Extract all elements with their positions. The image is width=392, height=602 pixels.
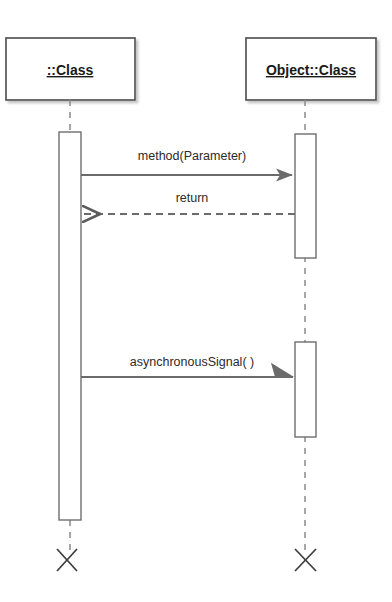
activation-bar-right-2[interactable]	[295, 342, 316, 437]
activation-bar-left-1[interactable]	[59, 132, 81, 520]
lifeline-label-left: ::Class	[47, 62, 94, 78]
message-label-method: method(Parameter)	[138, 149, 246, 163]
message-label-async-signal: asynchronousSignal( )	[130, 355, 254, 369]
message-return[interactable]: return	[84, 191, 295, 214]
sequence-diagram-svg: ::Class Object::Class method(Parameter)	[0, 0, 392, 602]
message-async-signal[interactable]: asynchronousSignal( )	[81, 355, 293, 377]
destroy-marker-right	[295, 549, 316, 571]
lifeline-label-right: Object::Class	[266, 62, 356, 78]
activation-bar-right-1[interactable]	[295, 134, 316, 258]
message-label-return: return	[176, 191, 209, 205]
destroy-marker-left	[57, 549, 77, 571]
lifeline-left[interactable]: ::Class	[6, 38, 135, 571]
sequence-diagram-canvas: ::Class Object::Class method(Parameter)	[0, 0, 392, 602]
lifeline-right[interactable]: Object::Class	[246, 38, 376, 571]
message-method[interactable]: method(Parameter)	[81, 149, 292, 175]
